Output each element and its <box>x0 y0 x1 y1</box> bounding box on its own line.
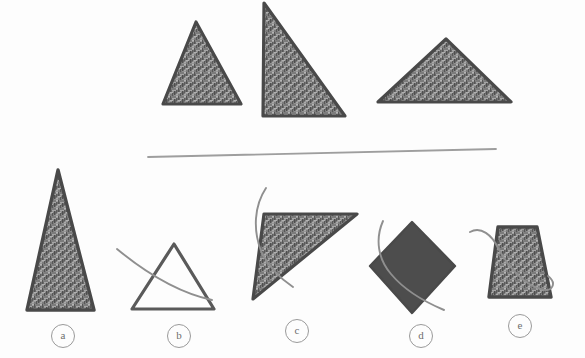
option-label-b[interactable]: b <box>167 324 191 348</box>
option-c-shape[interactable] <box>253 188 357 299</box>
triangle-shape <box>263 3 345 116</box>
prompt-shape-2 <box>263 3 345 116</box>
option-label-c[interactable]: c <box>285 319 309 343</box>
triangle-shape <box>27 170 94 310</box>
triangle-shape <box>163 22 241 104</box>
triangle-shape <box>378 39 511 102</box>
option-a-shape[interactable] <box>27 170 94 310</box>
trapezoid-shape <box>489 227 551 297</box>
option-label-e[interactable]: e <box>508 314 532 338</box>
option-b-shape[interactable] <box>117 244 214 309</box>
option-label-a[interactable]: a <box>51 324 75 348</box>
prompt-shape-3 <box>378 39 511 102</box>
section-divider <box>148 149 496 157</box>
puzzle-canvas: a b c d e <box>0 0 585 358</box>
option-e-shape[interactable] <box>470 227 553 297</box>
option-label-d[interactable]: d <box>409 324 433 348</box>
option-d-shape[interactable] <box>370 221 455 313</box>
prompt-shape-1 <box>163 22 241 104</box>
diamond-shape <box>370 222 455 313</box>
triangle-shape <box>253 214 357 299</box>
shapes-layer <box>0 0 585 358</box>
triangle-shape <box>132 244 214 309</box>
